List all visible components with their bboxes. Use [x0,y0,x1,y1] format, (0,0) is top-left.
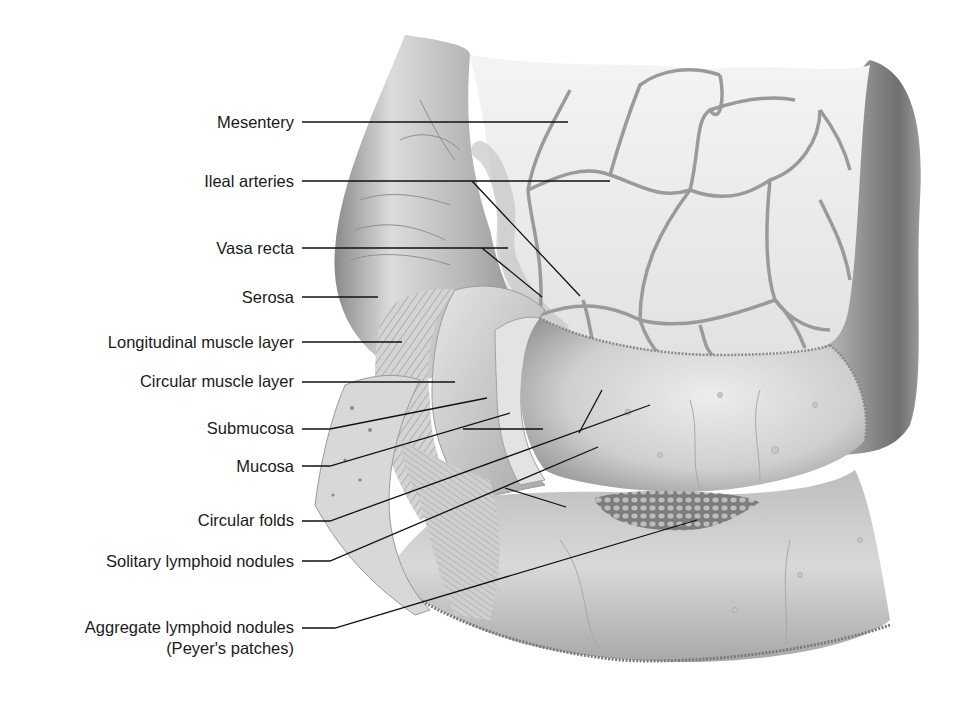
label-ileal-arteries: Ileal arteries [204,172,294,191]
label-mucosa: Mucosa [236,457,294,476]
label-solitary-lymphoid-nodules: Solitary lymphoid nodules [106,552,294,571]
label-longitudinal-muscle-layer: Longitudinal muscle layer [108,333,294,352]
label-mesentery: Mesentery [217,113,294,132]
label-circular-muscle-layer: Circular muscle layer [140,372,294,391]
label-aggregate-lymphoid-nodules: Aggregate lymphoid nodules (Peyer's patc… [85,617,294,659]
label-vasa-recta: Vasa recta [216,239,294,258]
label-circular-folds: Circular folds [198,511,294,530]
label-aggregate-text: Aggregate lymphoid nodules [85,617,294,638]
label-peyers-patches: (Peyer's patches) [85,638,294,659]
label-submucosa: Submucosa [207,419,294,438]
label-serosa: Serosa [242,288,294,307]
